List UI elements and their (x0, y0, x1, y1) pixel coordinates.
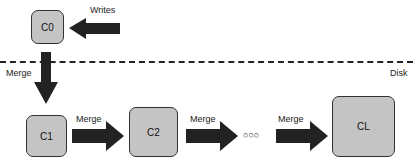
component-c1: C1 (26, 115, 67, 157)
component-c0-label: C0 (41, 22, 54, 33)
merge-dots-cl-label: Merge (278, 114, 304, 124)
merge-c2-dots-label: Merge (190, 114, 216, 124)
component-cl: CL (332, 96, 395, 157)
merge-c1-c2-label: Merge (76, 114, 102, 124)
component-c0: C0 (31, 10, 64, 44)
component-c1-label: C1 (40, 131, 53, 142)
merge-down-label: Merge (6, 68, 32, 78)
merge-down-arrow-icon (34, 52, 58, 104)
writes-label: Writes (90, 5, 115, 15)
merge-c1-c2-arrow-icon (72, 121, 124, 151)
writes-arrow-icon (69, 18, 120, 39)
merge-dots-cl-arrow-icon (276, 121, 328, 151)
component-c2-label: C2 (147, 127, 160, 138)
merge-c2-dots-arrow-icon (186, 121, 238, 151)
component-c2: C2 (129, 107, 178, 157)
disk-label: Disk (390, 68, 408, 78)
ellipsis-icon: ○○○ (243, 130, 259, 140)
component-cl-label: CL (357, 121, 370, 132)
